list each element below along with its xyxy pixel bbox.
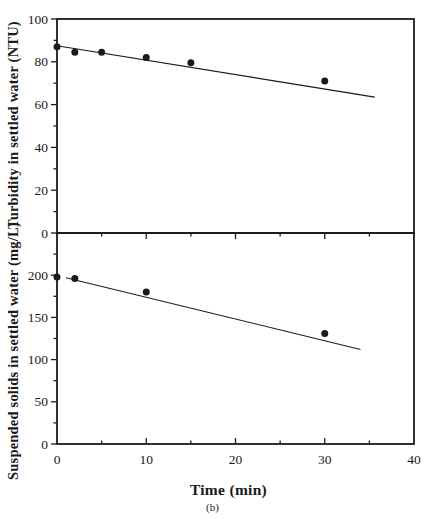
trend-line-bottom bbox=[66, 278, 361, 350]
y-axis-title-turbidity: Turbidity in settled water (NTU) bbox=[5, 21, 22, 229]
y-tick-label: 40 bbox=[35, 140, 49, 155]
data-point-top bbox=[54, 43, 61, 50]
scatter-plot-canvas: 020406080100050100150200010203040 bbox=[0, 0, 433, 519]
data-point-bottom bbox=[71, 275, 78, 282]
panel-border-top bbox=[57, 19, 414, 233]
x-tick-label: 20 bbox=[229, 452, 243, 467]
data-point-bottom bbox=[143, 289, 150, 296]
data-point-bottom bbox=[54, 273, 61, 280]
x-tick-label: 10 bbox=[140, 452, 154, 467]
x-tick-label: 0 bbox=[54, 452, 61, 467]
y-tick-label: 60 bbox=[35, 97, 49, 112]
data-point-top bbox=[71, 49, 78, 56]
data-point-top bbox=[143, 54, 150, 61]
figure-two-panel-scatter: 020406080100050100150200010203040 Turbid… bbox=[0, 0, 433, 519]
panel-border-bottom bbox=[57, 233, 414, 444]
y-tick-label: 0 bbox=[41, 437, 48, 452]
y-tick-label: 80 bbox=[35, 54, 49, 69]
y-tick-label: 200 bbox=[28, 268, 49, 283]
data-point-top bbox=[98, 49, 105, 56]
x-tick-label: 40 bbox=[407, 452, 421, 467]
y-tick-label: 100 bbox=[28, 352, 49, 367]
data-point-top bbox=[321, 78, 328, 85]
x-tick-label: 30 bbox=[318, 452, 332, 467]
subfigure-label: (b) bbox=[40, 501, 385, 513]
data-point-top bbox=[187, 59, 194, 66]
y-tick-label: 50 bbox=[35, 394, 49, 409]
y-tick-label: 100 bbox=[28, 12, 49, 27]
data-point-bottom bbox=[321, 330, 328, 337]
y-axis-title-suspended-solids: Suspended solids in settled water (mg/L) bbox=[5, 222, 22, 480]
y-tick-label: 20 bbox=[35, 183, 49, 198]
x-axis-title: Time (min) bbox=[50, 481, 407, 499]
y-tick-label: 0 bbox=[41, 226, 48, 241]
y-tick-label: 150 bbox=[28, 310, 49, 325]
